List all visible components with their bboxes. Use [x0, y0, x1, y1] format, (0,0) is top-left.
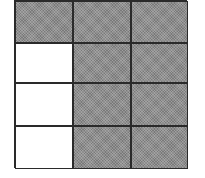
shaded-cell-r2-c2 [73, 43, 131, 83]
shaded-cell-r4-c2 [73, 126, 131, 169]
shaded-cell-r3-c2 [73, 83, 131, 126]
shaded-cell-r1-c1 [15, 1, 73, 43]
empty-cell-r4-c1 [15, 126, 73, 169]
empty-cell-r2-c1 [15, 43, 73, 83]
shaded-cell-r3-c3 [131, 83, 188, 126]
shaded-cell-r4-c3 [131, 126, 188, 169]
shaded-cell-r1-c3 [131, 1, 188, 43]
shaded-cell-r2-c3 [131, 43, 188, 83]
shaded-cell-r1-c2 [73, 1, 131, 43]
fraction-grid [14, 0, 187, 168]
empty-cell-r3-c1 [15, 83, 73, 126]
